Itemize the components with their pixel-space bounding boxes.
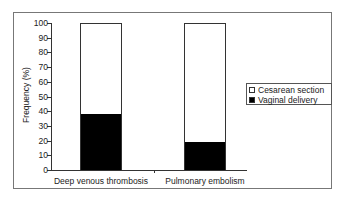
white-square-icon — [249, 87, 255, 93]
legend-item-vaginal: Vaginal delivery — [249, 95, 329, 105]
y-tick-label: 10 — [39, 150, 48, 160]
bar-segment-vaginal-delivery — [81, 114, 121, 170]
bar-pulmonary-embolism — [184, 23, 226, 171]
y-tick-label: 30 — [39, 121, 48, 131]
x-axis-tick — [154, 170, 155, 173]
y-tick-label: 60 — [39, 77, 48, 87]
bar-deep-venous-thrombosis — [80, 23, 122, 171]
y-axis-label: Frequency (%) — [21, 65, 31, 125]
y-tick-label: 90 — [39, 33, 48, 43]
y-tick-label: 100 — [34, 18, 48, 28]
y-tick-label: 20 — [39, 136, 48, 146]
y-tick-label: 50 — [39, 92, 48, 102]
legend: Cesarean section Vaginal delivery — [246, 83, 332, 105]
legend-label: Vaginal delivery — [258, 95, 317, 105]
y-axis — [51, 23, 52, 170]
y-tick-label: 80 — [39, 47, 48, 57]
bar-segment-vaginal-delivery — [185, 142, 225, 170]
y-tick-label: 70 — [39, 62, 48, 72]
y-tick-label: 40 — [39, 106, 48, 116]
x-category-label: Deep venous thrombosis — [46, 176, 156, 186]
legend-label: Cesarean section — [258, 85, 324, 95]
x-category-label: Pulmonary embolism — [150, 176, 260, 186]
y-tick-label: 0 — [43, 165, 48, 175]
legend-item-cesarean: Cesarean section — [249, 85, 329, 95]
black-square-icon — [249, 97, 255, 103]
